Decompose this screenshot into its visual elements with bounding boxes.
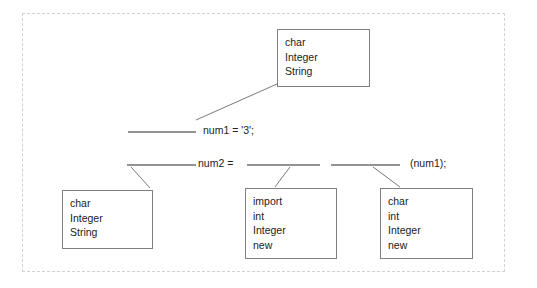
- word-option[interactable]: Integer: [70, 211, 145, 226]
- word-option[interactable]: import: [253, 194, 329, 209]
- word-option[interactable]: Integer: [253, 223, 329, 238]
- word-option[interactable]: char: [285, 35, 362, 50]
- word-option[interactable]: int: [388, 209, 465, 224]
- word-box-bottom-left[interactable]: charIntegerString: [62, 190, 153, 249]
- word-option[interactable]: String: [70, 225, 145, 240]
- word-option[interactable]: new: [253, 238, 329, 253]
- word-option[interactable]: int: [253, 209, 329, 224]
- code-fragment: (num1);: [410, 157, 446, 170]
- word-option[interactable]: new: [388, 238, 465, 253]
- word-box-top[interactable]: charIntegerString: [277, 29, 370, 87]
- word-option[interactable]: String: [285, 64, 362, 79]
- diagram-canvas: charIntegerStringcharIntegerStringimport…: [0, 0, 537, 288]
- word-box-bottom-middle[interactable]: importintIntegernew: [245, 188, 337, 259]
- word-option[interactable]: char: [388, 194, 465, 209]
- word-option[interactable]: char: [70, 196, 145, 211]
- code-fragment: num1 = '3';: [203, 124, 254, 137]
- word-option[interactable]: Integer: [388, 223, 465, 238]
- code-fragment: num2 =: [198, 157, 233, 170]
- word-option[interactable]: Integer: [285, 50, 362, 65]
- word-box-bottom-right[interactable]: charintIntegernew: [380, 188, 473, 259]
